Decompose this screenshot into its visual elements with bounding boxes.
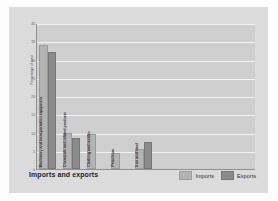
legend-item-imports: Imports [179,171,214,180]
y-tick-30: 30 [31,59,35,63]
chart-title: Imports and exports [29,171,98,178]
category-label: Machinery and transportation equipment [40,97,44,167]
bar-chart: Percentage of total 4035302520151050 Mac… [14,12,263,188]
bar-group: Machinery and transportation equipment [39,24,61,169]
chart-footer: Imports and exports Imports Exports [23,167,258,185]
category-label: Iron and steel [136,143,140,167]
y-tick-20: 20 [31,95,35,99]
bar-group: Iron and steel [135,24,157,169]
bar-groups: Machinery and transportation equipmentCh… [37,24,255,169]
y-tick-25: 25 [31,77,35,81]
screenshot-page: Percentage of total 4035302520151050 Mac… [0,0,278,201]
bar-group: Petroleum [111,24,133,169]
legend-swatch-exports [221,171,234,180]
legend-label-imports: Imports [195,173,214,179]
y-tick-15: 15 [31,113,35,117]
bar-exports [72,138,81,169]
bar-exports [48,52,57,169]
legend-label-exports: Exports [237,173,256,179]
category-label: Petroleum [112,149,116,167]
y-tick-35: 35 [31,40,35,44]
bar-exports [144,142,153,169]
y-tick-5: 5 [33,150,35,154]
plot-area: Machinery and transportation equipmentCh… [36,24,255,170]
chart-legend: Imports Exports [179,171,256,180]
category-label: Clothing and textiles [88,131,92,167]
y-tick-40: 40 [31,22,35,26]
chart-card: Percentage of total 4035302520151050 Mac… [9,7,268,193]
y-tick-10: 10 [31,132,35,136]
legend-swatch-imports [179,171,192,180]
bar-group: Clothing and textiles [87,24,109,169]
category-label: Chemicals and related products [64,112,68,167]
y-axis-tick-labels: 4035302520151050 [24,24,35,170]
legend-item-exports: Exports [221,171,256,180]
bar-group: Chemicals and related products [63,24,85,169]
